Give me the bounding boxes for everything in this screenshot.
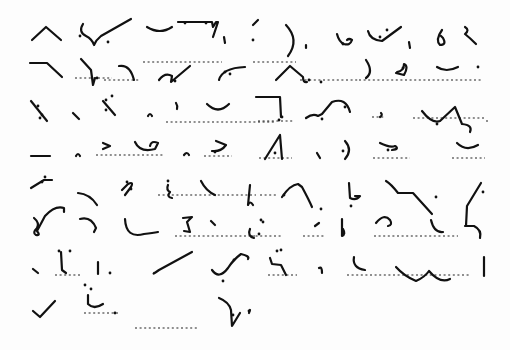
shorthand-outline <box>265 135 282 159</box>
shorthand-outline <box>80 218 96 232</box>
vowel-dot <box>276 250 279 253</box>
shorthand-outline <box>286 25 294 56</box>
shorthand-outline <box>73 113 79 119</box>
shorthand-outlines <box>30 19 484 326</box>
vowel-dot <box>280 249 283 252</box>
vowel-dot <box>350 205 353 208</box>
vowel-dot <box>114 312 117 315</box>
outline-stroke <box>368 27 401 41</box>
outline-stroke <box>286 25 294 56</box>
shorthand-outline <box>342 219 344 236</box>
shorthand-outline <box>224 37 225 43</box>
shorthand-outline <box>354 257 365 270</box>
outline-stroke <box>159 66 190 82</box>
shorthand-outlines-canvas <box>0 0 510 350</box>
shorthand-outline <box>58 250 72 273</box>
shorthand-outline <box>380 143 397 151</box>
shorthand-outline <box>30 63 62 77</box>
outline-stroke <box>306 101 350 118</box>
vowel-dot <box>232 314 235 317</box>
vowel-dot <box>109 272 112 275</box>
shorthand-outline <box>270 249 286 275</box>
outline-stroke <box>380 113 382 117</box>
outline-stroke <box>366 60 370 78</box>
vowel-dot <box>105 109 108 112</box>
vowel-dot <box>130 188 133 191</box>
shorthand-outline <box>135 142 158 150</box>
outline-stroke <box>219 298 240 326</box>
shorthand-page <box>0 0 510 350</box>
vowel-dot <box>111 95 114 98</box>
outline-stroke <box>184 153 189 155</box>
shorthand-outline <box>167 180 172 198</box>
outline-stroke <box>167 185 172 198</box>
outline-stroke <box>376 217 391 226</box>
shorthand-outline <box>256 97 283 121</box>
shorthand-outline <box>84 284 117 315</box>
shorthand-outline <box>465 226 480 238</box>
vowel-dot <box>342 150 345 153</box>
shorthand-outline <box>78 193 97 205</box>
outline-stroke <box>437 67 458 70</box>
shorthand-outline <box>219 67 245 80</box>
outline-stroke <box>349 183 360 199</box>
shorthand-outline <box>178 22 218 37</box>
vowel-dot <box>44 176 47 179</box>
shorthand-outline <box>315 223 319 226</box>
vowel-dot <box>342 43 345 46</box>
outline-stroke <box>431 220 443 232</box>
outline-stroke <box>256 97 281 117</box>
outline-stroke <box>34 207 64 235</box>
shorthand-outline <box>33 269 38 273</box>
vowel-dot <box>224 71 227 74</box>
vowel-dot <box>387 149 390 152</box>
shorthand-outline <box>212 141 226 153</box>
shorthand-outline <box>125 219 158 235</box>
shorthand-outline <box>249 219 264 238</box>
dotted-guide-lines <box>55 62 488 328</box>
vowel-dot <box>222 280 225 283</box>
outline-stroke <box>201 181 215 195</box>
shorthand-outline <box>431 220 443 232</box>
shorthand-outline <box>396 64 407 75</box>
outline-stroke <box>315 223 319 226</box>
outline-stroke <box>211 221 215 225</box>
shorthand-outline <box>386 181 437 214</box>
shorthand-outline <box>342 141 349 159</box>
vowel-dot <box>262 221 265 224</box>
shorthand-outline <box>337 34 352 45</box>
outline-stroke <box>465 27 476 44</box>
vowel-dot <box>39 117 42 120</box>
vowel-dot <box>90 288 93 291</box>
vowel-dot <box>107 41 110 44</box>
shorthand-outline <box>159 66 190 82</box>
vowel-dot <box>260 219 263 222</box>
shorthand-outline <box>148 114 152 116</box>
vowel-dot <box>233 259 236 262</box>
outline-stroke <box>32 27 61 40</box>
vowel-dot <box>320 81 323 84</box>
outline-stroke <box>342 219 344 236</box>
vowel-dot <box>402 67 405 70</box>
shorthand-outline <box>282 184 322 210</box>
vowel-dot <box>283 194 286 197</box>
shorthand-outline <box>465 27 476 44</box>
outline-stroke <box>103 101 115 115</box>
outline-stroke <box>148 114 152 116</box>
shorthand-outline <box>76 154 80 156</box>
vowel-dot <box>41 181 44 184</box>
outline-stroke <box>396 64 407 75</box>
shorthand-outline <box>31 101 47 121</box>
shorthand-outline <box>368 27 401 41</box>
outline-stroke <box>319 268 322 273</box>
outline-stroke <box>276 66 307 82</box>
outline-stroke <box>135 142 158 150</box>
vowel-dot <box>281 116 284 119</box>
outline-stroke <box>80 218 96 232</box>
shorthand-outline <box>396 267 450 281</box>
shorthand-outline <box>207 104 229 110</box>
outline-stroke <box>282 184 312 207</box>
vowel-dot <box>79 35 82 38</box>
outline-stroke <box>345 141 349 159</box>
outline-stroke <box>33 269 38 273</box>
